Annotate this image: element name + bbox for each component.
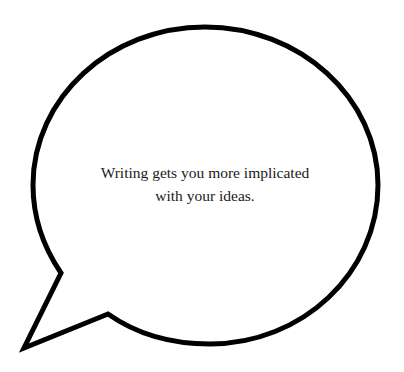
speech-bubble-text: Writing gets you more implicated with yo… <box>80 161 330 207</box>
speech-bubble-canvas: Writing gets you more implicated with yo… <box>0 0 404 372</box>
speech-bubble-line-1: Writing gets you more implicated <box>80 161 330 184</box>
speech-bubble-line-2: with your ideas. <box>80 184 330 207</box>
